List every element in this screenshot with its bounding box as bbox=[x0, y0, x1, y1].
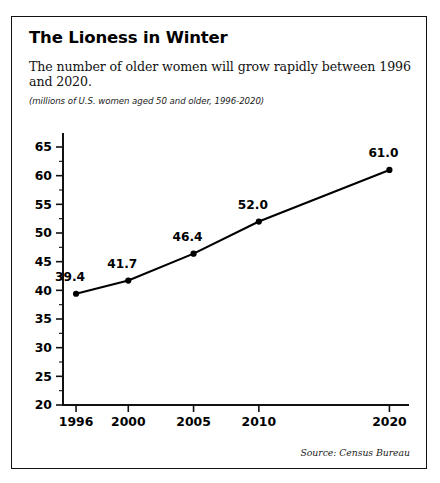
y-axis-tick-label: 20 bbox=[35, 397, 53, 412]
data-point-label: 41.7 bbox=[107, 257, 137, 271]
source-note: Source: Census Bureau bbox=[300, 447, 410, 458]
y-axis-tick-label: 40 bbox=[35, 283, 53, 298]
data-point-label: 46.4 bbox=[173, 230, 203, 244]
y-axis-tick-label: 25 bbox=[35, 369, 52, 384]
data-point-label: 39.4 bbox=[55, 270, 85, 284]
y-axis-tick-label: 30 bbox=[35, 340, 53, 355]
x-axis-tick-label: 2020 bbox=[372, 414, 407, 429]
figure-card: The Lioness in Winter The number of olde… bbox=[11, 16, 427, 469]
y-axis-tick-label: 65 bbox=[35, 139, 52, 154]
data-point-marker bbox=[125, 277, 131, 283]
chart-plot-area: 2025303540455055606519962000200520102020… bbox=[12, 17, 428, 470]
data-point-marker bbox=[190, 251, 196, 257]
y-axis-tick-label: 50 bbox=[35, 225, 53, 240]
x-axis-tick-label: 2000 bbox=[111, 414, 146, 429]
data-point-label: 52.0 bbox=[238, 198, 268, 212]
y-axis-tick-label: 55 bbox=[35, 197, 52, 212]
data-point-marker bbox=[73, 291, 79, 297]
y-axis-tick-label: 60 bbox=[35, 168, 53, 183]
x-axis-tick-label: 2005 bbox=[176, 414, 211, 429]
line-chart-svg: 2025303540455055606519962000200520102020… bbox=[12, 17, 428, 470]
x-axis-tick-label: 2010 bbox=[242, 414, 277, 429]
y-axis-tick-label: 45 bbox=[35, 254, 52, 269]
x-axis-tick-label: 1996 bbox=[59, 414, 94, 429]
data-point-label: 61.0 bbox=[368, 146, 398, 160]
y-axis-tick-label: 35 bbox=[35, 311, 52, 326]
data-series-line bbox=[76, 170, 389, 294]
data-point-marker bbox=[256, 218, 262, 224]
data-point-marker bbox=[386, 167, 392, 173]
